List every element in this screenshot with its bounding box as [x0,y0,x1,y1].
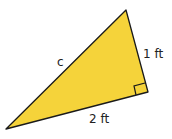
right-triangle [6,10,148,129]
triangle-diagram: c 1 ft 2 ft [0,0,172,139]
base-leg-label: 2 ft [89,112,109,126]
hypotenuse-label: c [57,55,64,69]
vertical-leg-label: 1 ft [143,47,163,61]
